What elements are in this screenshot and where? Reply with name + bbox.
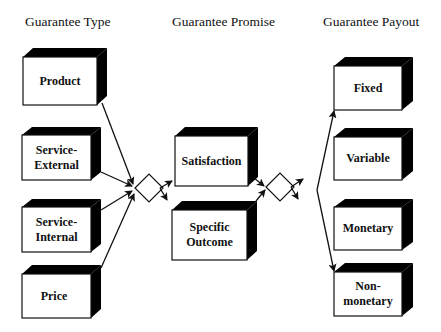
label-monetary: Monetary bbox=[334, 207, 402, 250]
label-product: Product bbox=[23, 57, 97, 105]
label-price: Price bbox=[22, 274, 86, 318]
label-service-internal: Service- Internal bbox=[22, 207, 91, 252]
label-fixed: Fixed bbox=[334, 66, 402, 110]
diamond-connector-2 bbox=[266, 173, 294, 201]
diamond-connector-1 bbox=[135, 174, 163, 202]
label-non-monetary: Non- monetary bbox=[334, 272, 402, 316]
label-variable: Variable bbox=[334, 137, 402, 180]
payout-arrows bbox=[317, 111, 334, 271]
type-arrows bbox=[101, 103, 172, 268]
label-service-external: Service- External bbox=[22, 135, 91, 180]
label-satisfaction: Satisfaction bbox=[175, 136, 248, 186]
label-specific-outcome: Specific Outcome bbox=[172, 210, 247, 260]
